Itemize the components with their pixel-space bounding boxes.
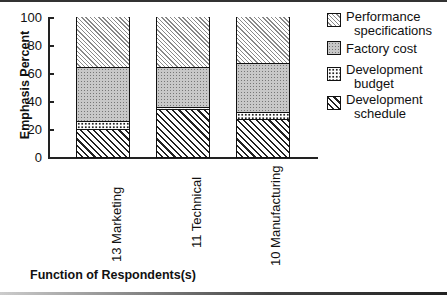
bar-segment (77, 121, 129, 129)
bar-segment (157, 109, 209, 157)
bar-segment (77, 129, 129, 157)
y-tick-label: 60 (18, 67, 42, 80)
pattern-swatch-icon (327, 96, 341, 110)
top-rule (0, 0, 447, 2)
bar-segment (77, 17, 129, 67)
pattern-swatch-icon (327, 67, 341, 81)
bar-segment (237, 17, 289, 63)
x-axis-label: Function of Respondents(s) (30, 268, 196, 282)
y-tick-label: 100 (18, 11, 42, 24)
y-tick-label: 20 (18, 123, 42, 136)
legend-label: specifications (354, 24, 432, 37)
legend-label: schedule (354, 107, 406, 120)
x-category-label: 13 Marketing (109, 187, 124, 262)
legend-label: Performance (346, 10, 420, 23)
y-tick (48, 129, 54, 131)
y-tick-label: 0 (18, 151, 42, 164)
bar-segment (157, 107, 209, 110)
legend-label: budget (354, 77, 394, 90)
legend-label: Development (346, 93, 423, 106)
x-category-label: 11 Technical (189, 177, 204, 248)
y-tick (48, 45, 54, 47)
legend-label: Factory cost (346, 42, 417, 55)
y-tick (48, 17, 54, 19)
bottom-rule (0, 292, 447, 295)
bar-segment (237, 119, 289, 157)
y-tick (48, 101, 54, 103)
legend-label: Development (346, 63, 423, 76)
y-tick-label: 80 (18, 39, 42, 52)
pattern-swatch-icon (327, 13, 341, 27)
x-category-label: 10 Manufacturing (268, 166, 283, 266)
bar-segment (77, 67, 129, 120)
y-tick (48, 73, 54, 75)
bar-segment (157, 67, 209, 106)
stacked-bar (236, 17, 290, 158)
y-axis (48, 17, 50, 158)
stacked-bar (156, 17, 210, 158)
pattern-swatch-icon (327, 41, 341, 55)
y-tick-label: 40 (18, 95, 42, 108)
stacked-bar (76, 17, 130, 158)
bar-segment (157, 17, 209, 67)
bar-segment (237, 112, 289, 119)
bar-segment (237, 63, 289, 112)
